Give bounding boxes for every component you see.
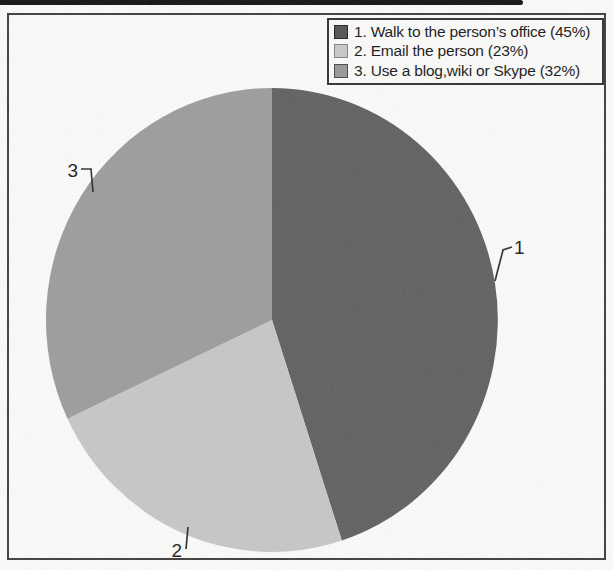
pie-chart: 1 2 3 <box>0 0 613 570</box>
legend-item-label: 2. Email the person (23%) <box>354 42 528 60</box>
legend-item: 3. Use a blog,wiki or Skype (32%) <box>334 62 598 80</box>
scanned-pie-chart-page: 1 2 3 1. Walk to the person’s office (45… <box>0 0 613 570</box>
callout-line-1 <box>495 247 512 281</box>
legend-swatch-3-icon <box>334 64 348 78</box>
pie-slices <box>46 88 498 552</box>
legend-swatch-1-icon <box>334 25 348 39</box>
callout-label-3: 3 <box>67 160 78 181</box>
legend-item-label: 3. Use a blog,wiki or Skype (32%) <box>354 62 580 80</box>
legend-item: 1. Walk to the person’s office (45%) <box>334 23 598 41</box>
legend-item-label: 1. Walk to the person’s office (45%) <box>354 23 590 41</box>
legend: 1. Walk to the person’s office (45%) 2. … <box>327 18 604 85</box>
callout-label-1: 1 <box>514 237 525 258</box>
callout-label-2: 2 <box>171 540 182 561</box>
legend-swatch-2-icon <box>334 44 348 58</box>
legend-item: 2. Email the person (23%) <box>334 42 598 60</box>
